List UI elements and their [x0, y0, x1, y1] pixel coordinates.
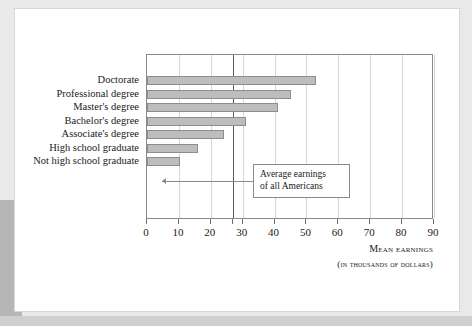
gridline — [434, 55, 435, 218]
x-axis-tick-label: 0 — [143, 226, 149, 238]
category-label: Associate's degree — [62, 128, 139, 139]
x-axis-tick — [242, 219, 243, 224]
annotation-line-2: of all Americans — [260, 181, 344, 193]
category-label: High school graduate — [49, 142, 139, 153]
x-axis-tick-label: 10 — [172, 226, 183, 238]
x-axis-title: Mean earnings — [369, 243, 433, 254]
x-axis-tick — [433, 219, 434, 224]
scan-background: DoctorateProfessional degreeMaster's deg… — [0, 0, 472, 326]
x-axis-tick — [178, 219, 179, 224]
category-label: Master's degree — [73, 101, 139, 112]
category-label: Not high school graduate — [33, 155, 139, 166]
x-axis-tick-label: 90 — [428, 226, 439, 238]
annotation-line-1: Average earnings — [260, 169, 344, 181]
annotation-callout: Average earnings of all Americans — [253, 164, 350, 198]
average-value-tick — [232, 219, 233, 224]
bar — [147, 144, 198, 153]
page-sheet: DoctorateProfessional degreeMaster's deg… — [14, 8, 460, 312]
bar — [147, 157, 180, 166]
bar — [147, 130, 224, 139]
x-axis-tick — [210, 219, 211, 224]
x-axis-tick-label: 60 — [332, 226, 343, 238]
bar — [147, 90, 291, 99]
x-axis-tick — [146, 219, 147, 224]
category-label: Doctorate — [98, 74, 139, 85]
x-axis-tick-label: 20 — [204, 226, 215, 238]
x-axis-tick-label: 30 — [236, 226, 247, 238]
category-label: Bachelor's degree — [65, 115, 139, 126]
x-axis-tick-label: 50 — [300, 226, 311, 238]
x-axis-tick-label: 40 — [268, 226, 279, 238]
page-shadow-bottom — [0, 316, 472, 326]
x-axis-tick-label: 70 — [364, 226, 375, 238]
bar — [147, 103, 278, 112]
x-axis-tick — [337, 219, 338, 224]
category-label: Professional degree — [56, 88, 139, 99]
x-axis-subtitle: (in thousands of dollars) — [337, 259, 433, 269]
annotation-leader-line — [162, 181, 253, 182]
bar — [147, 76, 316, 85]
x-axis-tick — [369, 219, 370, 224]
x-axis-tick — [401, 219, 402, 224]
x-axis-tick — [274, 219, 275, 224]
bar-chart-figure: DoctorateProfessional degreeMaster's deg… — [15, 9, 459, 311]
x-axis-tick — [305, 219, 306, 224]
bar — [147, 117, 246, 126]
x-axis-tick-label: 80 — [396, 226, 407, 238]
